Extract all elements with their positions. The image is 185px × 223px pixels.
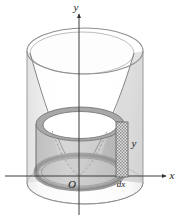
figure-canvas: y x O y dx (0, 0, 185, 223)
x-axis-label: x (169, 169, 175, 181)
shell-height-label: y (131, 137, 137, 149)
shell-cross-section (116, 122, 128, 177)
shell-top-rim (36, 107, 124, 141)
shell-cross-section-rect (116, 122, 128, 177)
origin-label: O (68, 178, 76, 190)
shell-top-rim-inner (43, 112, 117, 139)
shell-method-figure: y x O y dx (0, 0, 185, 223)
shell-thickness-label: dx (117, 179, 126, 189)
y-axis-label: y (73, 1, 79, 13)
